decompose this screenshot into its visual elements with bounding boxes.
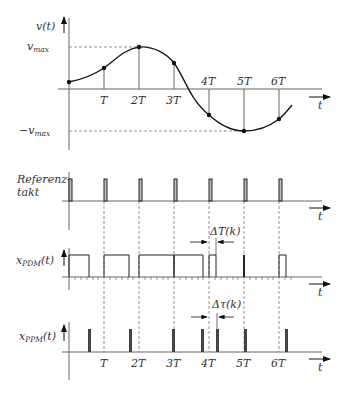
pulse-modulation-diagram: v(t) vmax −vmax T 2T 3T 4T 5T 6T t — [0, 0, 348, 396]
xlabel: t — [318, 210, 323, 223]
tick-T: T — [100, 94, 109, 107]
tick-4T: 4T — [200, 75, 217, 88]
vmax-label: vmax — [27, 40, 50, 54]
ppm-plot: xPPM(t) Δτ(k) T 2T 3T 4T 5T 6T t — [19, 298, 330, 380]
ylabel: v(t) — [36, 20, 55, 33]
tick-2T: 2T — [130, 94, 147, 107]
tick-T: T — [100, 357, 109, 370]
tick-3T: 3T — [166, 357, 182, 370]
xlabel: t — [318, 99, 323, 112]
tick-6T: 6T — [271, 75, 287, 88]
xlabel: t — [318, 361, 323, 374]
clock-pulses — [69, 179, 282, 201]
ppm-ylabel: xPPM(t) — [19, 330, 56, 344]
top-plot: v(t) vmax −vmax T 2T 3T 4T 5T 6T t — [19, 17, 330, 150]
pdm-pulses — [69, 255, 286, 277]
tick-5T: 5T — [237, 75, 253, 88]
clock-label-2: takt — [17, 186, 40, 199]
tick-5T: 5T — [236, 357, 252, 370]
ppm-pulses — [88, 329, 288, 352]
delta-tau-label: Δτ(k) — [211, 298, 241, 311]
tick-2T: 2T — [130, 357, 147, 370]
clock-label-1: Referenz- — [16, 173, 71, 186]
pdm-ylabel: xPDM(t) — [16, 254, 54, 268]
delta-T-label: ΔT(k) — [209, 225, 241, 238]
tick-4T: 4T — [200, 357, 217, 370]
pdm-plot: xPDM(t) ΔT(k) t — [16, 225, 330, 299]
xlabel: t — [318, 286, 323, 299]
tick-6T: 6T — [271, 357, 287, 370]
neg-vmax-label: −vmax — [19, 124, 51, 138]
tick-3T: 3T — [166, 94, 182, 107]
clock-plot: Referenz- takt t — [16, 172, 330, 230]
